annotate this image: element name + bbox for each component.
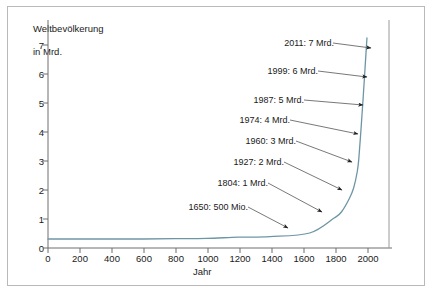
plot-area: [0, 0, 435, 294]
population-curve: [48, 38, 367, 239]
annotation-arrows: [248, 43, 371, 228]
annotation-arrow-1987: [304, 100, 363, 105]
annotation-arrow-1960: [296, 141, 352, 162]
y-axis-ticks: [43, 45, 48, 248]
annotation-arrow-1974: [290, 120, 358, 134]
annotation-arrow-1650: [248, 207, 288, 228]
annotation-arrow-2011: [333, 43, 371, 48]
annotation-arrow-1999: [318, 71, 367, 77]
x-axis-ticks: [48, 248, 368, 253]
annotation-arrow-1927: [284, 162, 342, 190]
annotation-arrow-1804: [268, 183, 322, 212]
population-growth-chart: Weltbevölkerung in Mrd. Jahr 7 6 5 4 3 2…: [0, 0, 435, 294]
